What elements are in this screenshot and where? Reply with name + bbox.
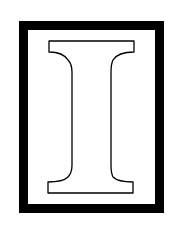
letter-i-outline-icon [0,0,177,225]
